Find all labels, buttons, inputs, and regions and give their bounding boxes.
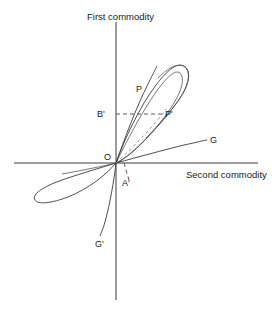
lower-offer-loop	[34, 163, 116, 203]
horizontal-axis-label: Second commodity	[186, 169, 267, 180]
label-p-prime: P'	[165, 109, 173, 119]
diagram-canvas: First commodity Second commodity O P P' …	[0, 0, 272, 317]
label-g-prime: G'	[95, 239, 104, 249]
curve-g-prime	[100, 163, 116, 236]
dashed-tangent-curve	[116, 109, 166, 163]
label-g: G	[210, 135, 217, 145]
label-origin: O	[104, 152, 111, 162]
curve-g	[116, 140, 207, 163]
label-a-prime: A'	[122, 178, 130, 188]
label-p: P	[136, 84, 142, 94]
offer-curve-figure: First commodity Second commodity O P P' …	[0, 0, 272, 317]
vertical-axis-label: First commodity	[87, 11, 154, 22]
label-b-prime: B'	[97, 109, 105, 119]
curve-g-left-continuation	[62, 163, 116, 174]
